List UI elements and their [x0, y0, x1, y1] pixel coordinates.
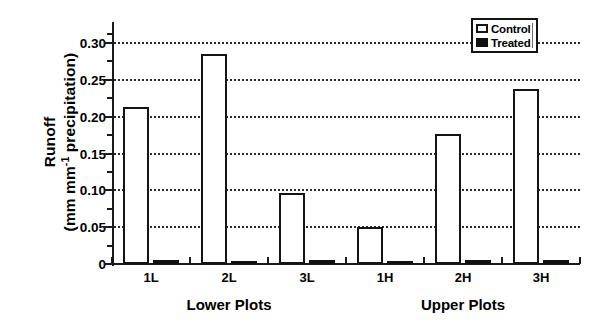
y-tick-label: 0.20 [60, 109, 106, 124]
x-category-label-1h: 1H [377, 270, 394, 285]
y-tick-minor [107, 208, 113, 210]
y-tick-label: 0.25 [60, 72, 106, 87]
bar-2l-treated [231, 261, 257, 264]
x-category-label-2l: 2L [221, 270, 236, 285]
y-tick-label: 0 [60, 257, 106, 272]
legend-label-control: Control [491, 23, 530, 35]
y-tick-minor [107, 60, 113, 62]
x-tick [579, 257, 581, 264]
bar-2h-treated [465, 260, 491, 264]
y-tick-major [104, 189, 113, 191]
y-tick-minor [107, 171, 113, 173]
runoff-bar-chart: Runoff (mm mm-1 precipitation) 00.050.10… [0, 0, 608, 329]
y-tick-major [104, 79, 113, 81]
legend-inner-rule [532, 23, 533, 48]
group-label-upper-plots: Upper Plots [421, 296, 505, 313]
legend-label-treated: Treated [491, 37, 531, 49]
y-tick-minor [107, 97, 113, 99]
gridline [114, 189, 580, 191]
x-tick [423, 257, 425, 264]
gridline [114, 153, 580, 155]
y-axis-tick-labels: 00.050.100.150.200.250.30 [58, 0, 106, 329]
x-tick [345, 257, 347, 264]
y-tick-label: 0.10 [60, 183, 106, 198]
bar-2h-control [435, 134, 461, 264]
x-category-label-3l: 3L [299, 270, 314, 285]
bar-1h-treated [387, 261, 413, 264]
bar-3h-treated [543, 260, 569, 264]
bar-3l-control [279, 193, 305, 264]
gridline [114, 226, 580, 228]
y-tick-label: 0.05 [60, 220, 106, 235]
x-tick [189, 257, 191, 264]
bar-1l-control [123, 107, 149, 264]
gridline [114, 79, 580, 81]
bar-1h-control [357, 227, 383, 264]
y-tick-major [104, 42, 113, 44]
y-tick-label: 0.15 [60, 146, 106, 161]
y-tick-major [104, 153, 113, 155]
legend-item-control: Control [476, 22, 531, 35]
legend-item-treated: Treated [476, 36, 531, 49]
x-tick [501, 257, 503, 264]
bar-2l-control [201, 54, 227, 264]
plot-area [112, 32, 580, 264]
x-category-label-2h: 2H [455, 270, 472, 285]
legend-swatch-control-icon [476, 24, 488, 33]
y-tick-major [104, 226, 113, 228]
y-tick-minor [107, 245, 113, 247]
x-axis-category-labels: 1L2L3L1H2H3H [112, 270, 580, 290]
y-tick-minor [107, 134, 113, 136]
x-axis-group-labels: Lower PlotsUpper Plots [112, 296, 580, 320]
bar-3l-treated [309, 260, 335, 264]
bar-3h-control [513, 89, 539, 264]
y-tick-major [104, 116, 113, 118]
x-tick [111, 257, 113, 264]
x-category-label-3h: 3H [533, 270, 550, 285]
y-tick-minor [107, 33, 113, 35]
x-category-label-1l: 1L [143, 270, 158, 285]
bar-1l-treated [153, 260, 179, 264]
legend-swatch-treated-icon [476, 38, 488, 47]
legend: Control Treated [471, 18, 538, 53]
y-axis-title-line1: Runoff [41, 117, 59, 168]
gridline [114, 116, 580, 118]
y-axis-line [112, 22, 114, 266]
group-label-lower-plots: Lower Plots [186, 296, 271, 313]
x-tick [267, 257, 269, 264]
y-tick-label: 0.30 [60, 36, 106, 51]
